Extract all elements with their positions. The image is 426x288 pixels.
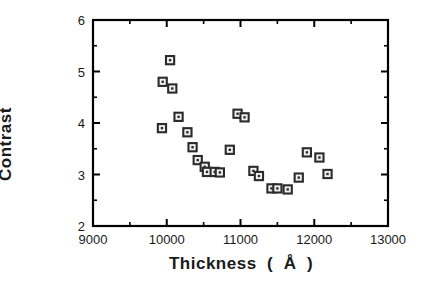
data-point-marker <box>284 185 292 193</box>
data-point-marker <box>174 113 182 121</box>
data-point-marker <box>216 168 224 176</box>
x-axis-title: Thickness ( Å ) <box>169 254 313 274</box>
x-tick-label: 13000 <box>370 232 406 247</box>
axis-ticks <box>93 20 388 226</box>
plot-area-svg: 900010000110001200013000 23456 <box>0 0 426 288</box>
data-points <box>158 56 332 193</box>
x-tick-label: 12000 <box>296 232 332 247</box>
data-point-marker <box>166 56 174 64</box>
y-tick-label: 3 <box>78 168 85 183</box>
data-point-marker <box>273 184 281 192</box>
data-point-marker <box>255 172 263 180</box>
axes-frame <box>93 20 388 226</box>
x-tick-label: 9000 <box>79 232 108 247</box>
x-tick-label: 10000 <box>149 232 185 247</box>
data-point-marker <box>295 173 303 181</box>
data-point-marker <box>315 153 323 161</box>
data-point-marker <box>226 146 234 154</box>
data-point-marker <box>240 113 248 121</box>
y-axis-title: Contrast <box>0 64 16 224</box>
data-point-marker <box>159 78 167 86</box>
scatter-chart-figure: 900010000110001200013000 23456 Contrast … <box>0 0 426 288</box>
data-point-marker <box>168 84 176 92</box>
data-point-marker <box>303 148 311 156</box>
y-tick-label: 5 <box>78 65 85 80</box>
y-tick-label: 2 <box>78 219 85 234</box>
data-point-marker <box>188 143 196 151</box>
data-point-marker <box>323 170 331 178</box>
data-point-marker <box>158 124 166 132</box>
y-tick-label: 6 <box>78 13 85 28</box>
data-point-marker <box>183 128 191 136</box>
y-tick-labels: 23456 <box>78 13 85 234</box>
x-tick-labels: 900010000110001200013000 <box>79 232 407 247</box>
x-tick-label: 11000 <box>223 232 258 247</box>
y-tick-label: 4 <box>78 116 85 131</box>
